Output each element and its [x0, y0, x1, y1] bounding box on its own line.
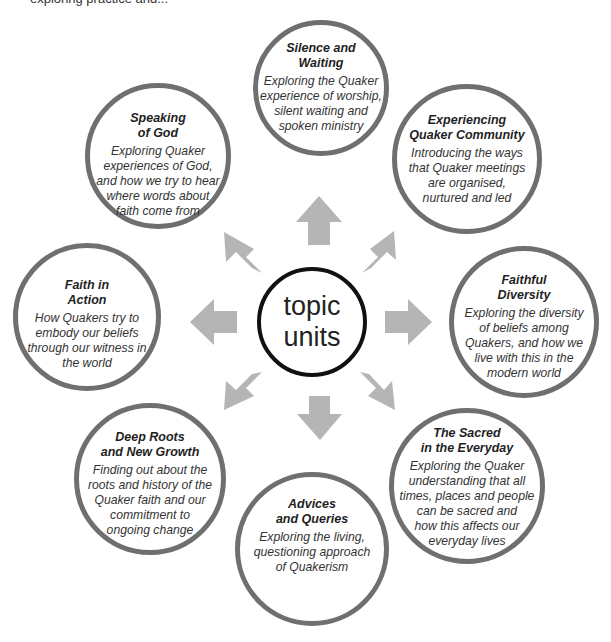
unit-description: How Quakers try toembody our beliefs thr…: [27, 311, 146, 371]
unit-description: Finding out about theroots and history o…: [88, 463, 212, 538]
unit-the-sacred-in-the-everyday: The Sacred in the Everyday Exploring the…: [389, 408, 545, 564]
unit-description: Exploring the Quakerexperience of worshi…: [260, 74, 382, 134]
hub-label-line1: topic: [283, 291, 340, 322]
arrow-down-icon: [297, 396, 342, 440]
unit-title: The Sacred: [433, 426, 500, 441]
unit-title: Silence and: [286, 41, 355, 56]
unit-title: and Queries: [276, 512, 348, 527]
unit-title: Speaking: [130, 111, 186, 126]
arrow-up-left-icon: [224, 232, 262, 273]
unit-title: Advices: [288, 497, 336, 512]
unit-experiencing-quaker-community: Experiencing Quaker Community Introducin…: [392, 84, 542, 234]
unit-title: Faithful: [501, 273, 546, 288]
unit-title: Diversity: [498, 288, 551, 303]
unit-title: Experiencing: [428, 113, 507, 128]
unit-title: Waiting: [299, 56, 344, 71]
unit-title: Deep Roots: [115, 430, 184, 445]
unit-title: in the Everyday: [421, 441, 513, 456]
unit-faith-in-action: Faith in Action How Quakers try toembody…: [13, 243, 161, 391]
unit-description: Exploring the living,questioning approac…: [254, 530, 371, 575]
unit-description: Exploring Quakerexperiences of God, and …: [96, 144, 219, 219]
unit-description: Introducing the waysthat Quaker meetings…: [409, 146, 526, 206]
topic-units-hub: topic units: [257, 267, 367, 377]
arrow-up-right-icon: [362, 231, 396, 273]
unit-description: Exploring the diversityof beliefs among …: [464, 306, 583, 381]
unit-faithful-diversity: Faithful Diversity Exploring the diversi…: [449, 246, 599, 398]
unit-description: Exploring the Quakerunderstanding that a…: [400, 459, 535, 549]
arrow-right-icon: [385, 299, 432, 345]
unit-title: Action: [68, 293, 107, 308]
unit-silence-and-waiting: Silence and Waiting Exploring the Quaker…: [253, 20, 389, 156]
unit-deep-roots-and-new-growth: Deep Roots and New Growth Finding out ab…: [74, 403, 226, 555]
unit-speaking-of-god: Speaking of God Exploring Quakerexperien…: [85, 83, 231, 229]
unit-advices-and-queries: Advices and Queries Exploring the living…: [235, 472, 389, 626]
arrow-down-left-icon: [224, 372, 262, 410]
arrow-up-icon: [296, 196, 342, 245]
unit-title: Quaker Community: [409, 128, 524, 143]
arrow-left-icon: [190, 299, 237, 345]
hub-label-line2: units: [283, 322, 340, 353]
unit-title: Faith in: [65, 278, 109, 293]
arrow-down-right-icon: [360, 372, 395, 410]
unit-title: and New Growth: [101, 445, 200, 460]
unit-title: of God: [138, 126, 178, 141]
